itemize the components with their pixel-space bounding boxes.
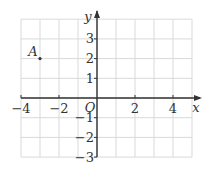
x-tick-label: −2 bbox=[49, 101, 68, 116]
coordinate-grid: −4−224321−1−2−3Oxy A bbox=[0, 0, 204, 174]
axes bbox=[21, 10, 202, 157]
y-tick-label: 3 bbox=[86, 31, 94, 46]
point-label: A bbox=[27, 44, 37, 59]
x-tick-label: 4 bbox=[169, 101, 177, 116]
points: A bbox=[27, 44, 41, 61]
origin-label: O bbox=[85, 100, 96, 115]
x-tick-label: −4 bbox=[11, 101, 30, 116]
grid-lines bbox=[21, 19, 192, 157]
y-tick-label: 1 bbox=[86, 71, 94, 86]
y-axis-label: y bbox=[83, 9, 92, 24]
y-tick-label: 2 bbox=[86, 51, 94, 66]
x-axis-label: x bbox=[192, 100, 200, 115]
x-tick-label: 2 bbox=[131, 101, 139, 116]
point-A bbox=[38, 57, 41, 60]
y-tick-label: −3 bbox=[75, 150, 94, 165]
y-axis-arrow-icon bbox=[94, 10, 100, 18]
y-tick-label: −2 bbox=[75, 130, 94, 145]
